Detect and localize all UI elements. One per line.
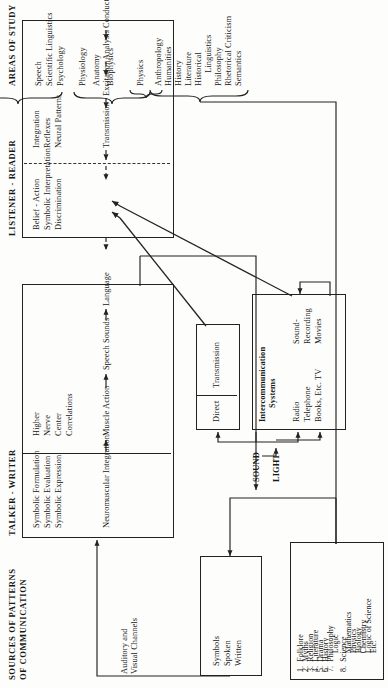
rotated-diagram-canvas: SOURCES OF PATTERNS OF COMMUNICATION TAL… [0, 0, 388, 688]
figure-page: SOURCES OF PATTERNS OF COMMUNICATION TAL… [0, 0, 388, 688]
line-brace-d-to-patterns [200, 102, 336, 544]
line-language-to-channels [140, 256, 256, 490]
brace-group-a [0, 92, 62, 104]
arrow-intercom-into-conduction [112, 201, 120, 206]
diagram-connectors [0, 0, 388, 688]
brace-group-c [130, 90, 162, 98]
arrow-intercom-loop [300, 282, 330, 296]
arrow-patterns-to-symbols [230, 498, 336, 556]
arrow-light-branch [262, 448, 276, 456]
line-direct-to-listener [120, 218, 206, 326]
brace-group-d [150, 90, 248, 102]
page-caption-fragment [378, 10, 386, 680]
arrow-symbols-to-talker [97, 540, 230, 676]
arrow-sound-to-direct [218, 432, 256, 442]
arrow-direct-into-conduction [112, 212, 120, 218]
